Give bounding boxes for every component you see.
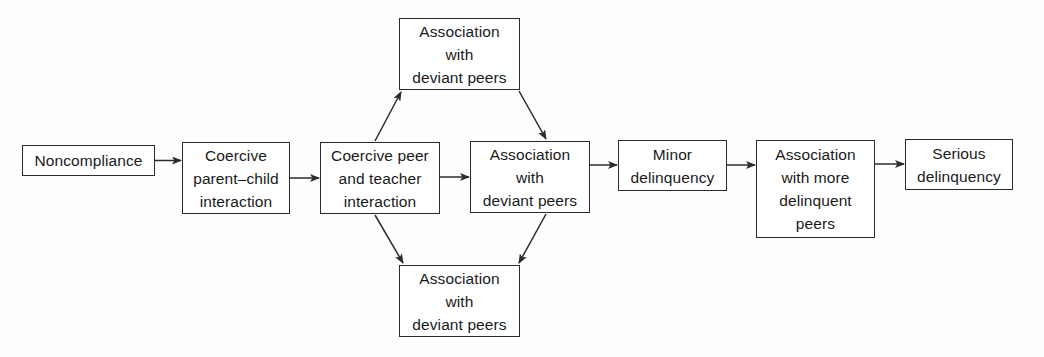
node-more-delinquent-line-1: Association [775,143,855,166]
node-noncompliance-line-1: Noncompliance [34,149,142,172]
node-minor-delinquency-line-1: Minor [653,143,692,166]
node-coercive-parent-line-1: Coercive [205,144,267,167]
node-deviant-top-line-1: Association [419,20,499,43]
node-deviant-top-line-2: with [446,43,474,66]
node-minor-delinquency: Minor delinquency [618,140,727,191]
node-more-delinquent-line-3: delinquent [779,189,852,212]
node-coercive-peer-line-1: Coercive peer [331,144,429,167]
node-noncompliance: Noncompliance [22,145,155,176]
node-deviant-bottom-line-2: with [446,290,474,313]
node-serious-delinq-line-1: Serious [932,142,985,165]
node-minor-delinquency-line-2: delinquency [631,166,715,189]
node-coercive-parent-line-2: parent–child [193,167,279,190]
edge-deviant-center-to-deviant-bottom [519,214,546,263]
node-coercive-peer-line-2: and teacher [339,167,422,190]
node-association-deviant-peers-top: Association with deviant peers [399,18,520,90]
node-serious-delinq-line-2: delinquency [917,165,1001,188]
node-coercive-parent-child-interaction: Coercive parent–child interaction [182,142,290,214]
node-association-deviant-peers-bottom: Association with deviant peers [399,265,520,337]
node-deviant-bottom-line-1: Association [419,267,499,290]
node-more-delinquent-line-4: peers [796,212,835,235]
node-deviant-center-line-2: with [516,166,544,189]
node-deviant-bottom-line-3: deviant peers [412,313,506,336]
node-coercive-parent-line-3: interaction [200,190,273,213]
node-deviant-top-line-3: deviant peers [412,66,506,89]
edge-deviant-top-to-deviant-center [519,91,546,139]
node-coercive-peer-and-teacher-interaction: Coercive peer and teacher interaction [320,142,440,214]
node-association-deviant-peers-center: Association with deviant peers [470,141,590,213]
edge-coercive-peer-to-deviant-top [375,92,401,141]
node-deviant-center-line-3: deviant peers [483,189,577,212]
node-coercive-peer-line-3: interaction [344,190,417,213]
developmental-pathway-diagram: Noncompliance Coercive parent–child inte… [0,0,1044,357]
edge-coercive-peer-to-deviant-bottom [375,215,403,263]
node-serious-delinquency: Serious delinquency [905,139,1013,190]
node-more-delinquent-line-2: with more [781,166,849,189]
node-association-with-more-delinquent-peers: Association with more delinquent peers [756,140,875,238]
node-deviant-center-line-1: Association [490,143,570,166]
